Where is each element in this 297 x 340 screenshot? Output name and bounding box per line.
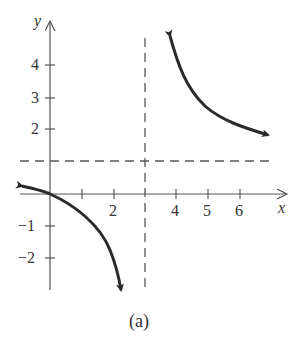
x-axis-label: x: [278, 200, 285, 216]
y-tick-label: 3: [31, 90, 39, 106]
x-tick-label: 2: [109, 203, 117, 219]
left-branch-curve: [22, 186, 121, 290]
x-tick-label: 4: [171, 203, 179, 219]
right-branch-curve: [170, 36, 268, 135]
y-tick-label: 2: [31, 121, 39, 137]
y-tick-label: −2: [18, 250, 35, 266]
y-tick-label: −1: [18, 218, 35, 234]
x-tick-label: 5: [203, 203, 211, 219]
y-axis-label: y: [34, 13, 41, 29]
rational-function-graph: [0, 0, 297, 340]
figure-caption: (a): [129, 312, 149, 330]
x-tick-label: 6: [235, 203, 243, 219]
y-tick-label: 4: [31, 57, 39, 73]
